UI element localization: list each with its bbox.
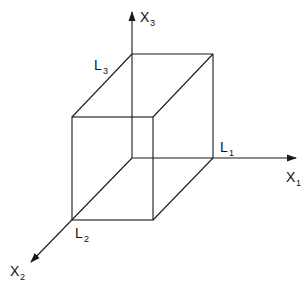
front-face [72,117,153,220]
svg-text:3: 3 [103,66,108,76]
axis-label-x3: X 3 [140,9,155,28]
dimension-label-l2: L 2 [75,225,89,244]
x2-axis [31,158,132,262]
svg-text:L: L [75,225,83,241]
top-right-diagonal [153,54,213,117]
svg-text:L: L [220,139,228,155]
bottom-right-diagonal [153,158,213,220]
svg-text:1: 1 [229,148,234,158]
dimension-label-l3: L 3 [94,57,108,76]
svg-text:2: 2 [84,234,89,244]
svg-text:X: X [286,169,296,185]
svg-text:2: 2 [20,272,25,282]
svg-text:X: X [10,263,20,279]
top-left-diagonal [72,54,132,117]
axis-label-x1: X 1 [286,169,301,188]
svg-text:X: X [140,9,150,25]
svg-text:3: 3 [150,18,155,28]
svg-text:L: L [94,57,102,73]
dimension-label-l1: L 1 [220,139,234,158]
axis-label-x2: X 2 [10,263,25,282]
svg-text:1: 1 [296,178,301,188]
box-diagram: X 3 X 1 X 2 L 3 L 1 L 2 [0,0,306,285]
